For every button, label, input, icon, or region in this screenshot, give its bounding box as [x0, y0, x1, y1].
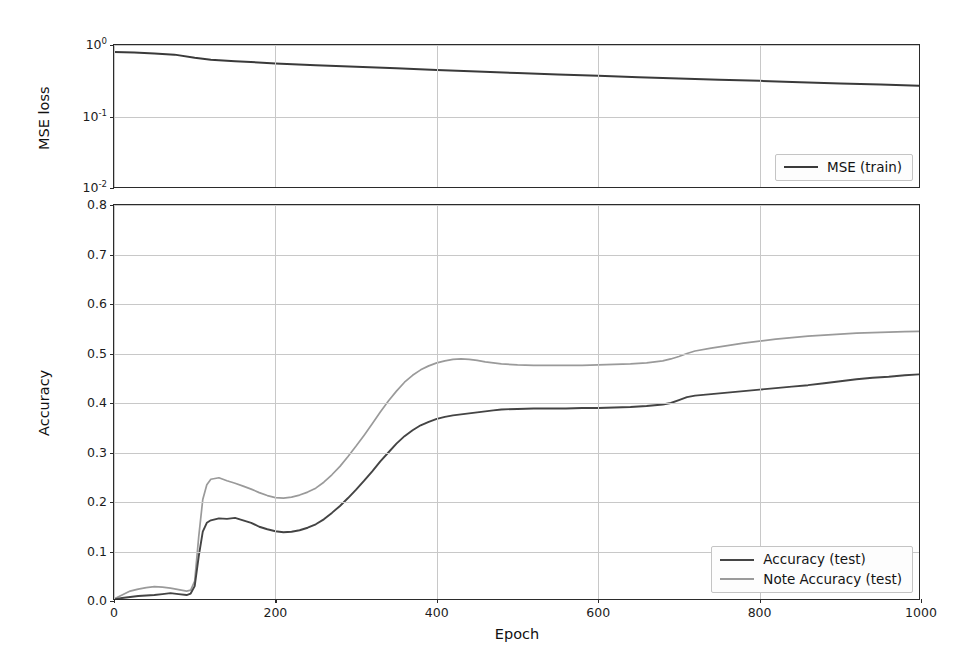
mse-gridline-v-3: [598, 45, 599, 187]
mse-gridline-v-1: [275, 45, 276, 187]
legend-item-note-accuracy-test[interactable]: Note Accuracy (test): [720, 573, 902, 587]
mse-loss-ylabel: MSE loss: [36, 87, 52, 151]
accuracy-gridline-v-4: [760, 205, 761, 599]
accuracy-xtick-800: [760, 599, 761, 603]
accuracy-xticklabel-200: 200: [263, 607, 287, 620]
accuracy-yticklabel-0.6: 0.6: [87, 298, 107, 311]
accuracy-gridline-v-1: [275, 205, 276, 599]
accuracy-ytick-0.2: [110, 502, 114, 503]
mse-gridline-h-0: [114, 45, 919, 46]
legend-item-accuracy-test[interactable]: Accuracy (test): [720, 553, 902, 567]
accuracy-xtick-1000: [921, 599, 922, 603]
accuracy-gridline-h-4: [114, 403, 919, 404]
mse-gridline-h-1: [114, 117, 919, 118]
accuracy-yticklabel-0.8: 0.8: [87, 199, 107, 212]
mse-gridline-v-2: [437, 45, 438, 187]
mse-ytick-1e-1: [110, 117, 114, 118]
mse-exponent-1: -1: [98, 108, 107, 118]
accuracy-gridline-h-7: [114, 255, 919, 256]
legend-swatch-accuracy-test: [720, 559, 754, 561]
legend-label-mse-train: MSE (train): [827, 161, 902, 175]
accuracy-gridline-v-2: [437, 205, 438, 599]
accuracy-ytick-0.3: [110, 453, 114, 454]
accuracy-ylabel: Accuracy: [36, 370, 52, 436]
mse-series-0: [114, 52, 919, 86]
accuracy-yticklabel-0.3: 0.3: [87, 446, 107, 459]
figure: 100 10-1 10-2 MSE (train) MSE loss Accur…: [0, 0, 965, 664]
mse-exponent-0: 0: [102, 36, 107, 46]
mse-ytick-1e0: [110, 45, 114, 46]
accuracy-gridline-h-2: [114, 502, 919, 503]
accuracy-axes: Accuracy (test) Note Accuracy (test) 0.0…: [113, 204, 920, 600]
accuracy-xtick-400: [437, 599, 438, 603]
accuracy-ytick-0.1: [110, 552, 114, 553]
legend-label-note-accuracy-test: Note Accuracy (test): [763, 573, 902, 587]
accuracy-ytick-0.6: [110, 304, 114, 305]
legend-label-accuracy-test: Accuracy (test): [763, 553, 865, 567]
accuracy-gridline-h-3: [114, 453, 919, 454]
accuracy-plot-surface: [114, 205, 919, 599]
legend-swatch-mse-train: [784, 166, 818, 168]
accuracy-gridline-v-0: [114, 205, 115, 599]
legend-swatch-note-accuracy-test: [720, 578, 754, 580]
mse-gridline-v-0: [114, 45, 115, 187]
accuracy-yticklabel-0.5: 0.5: [87, 347, 107, 360]
accuracy-yticklabel-0.2: 0.2: [87, 496, 107, 509]
accuracy-xticklabel-600: 600: [586, 607, 610, 620]
mse-yticklabel-1e-1: 10-1: [83, 111, 107, 124]
epoch-xlabel: Epoch: [495, 626, 539, 642]
accuracy-legend: Accuracy (test) Note Accuracy (test): [711, 546, 913, 593]
mse-loss-axes: 100 10-1 10-2 MSE (train): [113, 44, 920, 188]
accuracy-gridline-h-8: [114, 205, 919, 206]
mse-exponent-2: -2: [98, 179, 107, 189]
accuracy-yticklabel-0.7: 0.7: [87, 248, 107, 261]
legend-item-mse-train[interactable]: MSE (train): [784, 161, 902, 175]
accuracy-xticklabel-1000: 1000: [905, 607, 937, 620]
accuracy-gridline-v-3: [598, 205, 599, 599]
accuracy-xticklabel-400: 400: [425, 607, 449, 620]
mse-yticklabel-1e-2: 10-2: [83, 182, 107, 195]
accuracy-gridline-h-5: [114, 354, 919, 355]
accuracy-xticklabel-0: 0: [110, 607, 118, 620]
mse-gridline-v-4: [760, 45, 761, 187]
accuracy-ytick-0.8: [110, 205, 114, 206]
accuracy-yticklabel-0.0: 0.0: [87, 595, 107, 608]
accuracy-ytick-0.7: [110, 255, 114, 256]
mse-ytick-1e-2: [110, 188, 114, 189]
accuracy-xtick-0: [114, 599, 115, 603]
mse-yticklabel-1e0: 100: [86, 39, 107, 52]
accuracy-xticklabel-800: 800: [748, 607, 772, 620]
accuracy-ytick-0.4: [110, 403, 114, 404]
accuracy-yticklabel-0.1: 0.1: [87, 545, 107, 558]
accuracy-xtick-600: [598, 599, 599, 603]
accuracy-lines: [114, 205, 919, 599]
accuracy-xtick-200: [275, 599, 276, 603]
mse-legend: MSE (train): [775, 154, 913, 182]
accuracy-yticklabel-0.4: 0.4: [87, 397, 107, 410]
accuracy-ytick-0.5: [110, 354, 114, 355]
accuracy-gridline-h-6: [114, 304, 919, 305]
